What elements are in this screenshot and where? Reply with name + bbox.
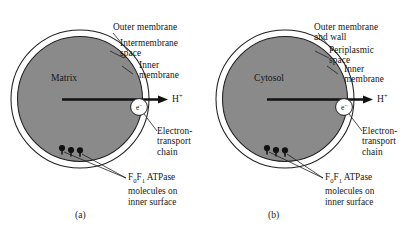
- atpase-knob: [273, 147, 279, 153]
- panel-b-drawing: [205, 0, 410, 236]
- leader-electron-transport-chain: [144, 114, 157, 131]
- label-electron-transport-chain: Electron- transport chain: [157, 126, 193, 157]
- interior-compartment-label: Cytosol: [254, 72, 284, 83]
- label-intermembrane-space: Intermembrane space: [120, 38, 178, 59]
- label-inner-membrane: Inner membrane: [139, 60, 179, 81]
- label-outer-membrane-and-wall: Outer membrane and wall: [314, 22, 378, 43]
- label-electron-transport-chain: Electron- transport chain: [362, 126, 398, 157]
- proton-label: H+: [377, 92, 388, 104]
- proton-label: H+: [172, 92, 183, 104]
- atpase-knob: [68, 147, 74, 153]
- label-atpase-molecules: F0F1 ATPase molecules on inner surface: [128, 172, 177, 207]
- label-atpase-molecules: F0F1 ATPase molecules on inner surface: [325, 172, 374, 207]
- atpase-name-line: F0F1 ATPase: [325, 172, 374, 186]
- label-periplasmic-space: Periplasmic space: [329, 45, 374, 66]
- electron-label: e−: [341, 102, 347, 112]
- atpase-knob: [264, 145, 270, 151]
- atpase-name-line: F0F1 ATPase: [128, 172, 177, 186]
- proton-arrow-head: [363, 95, 373, 103]
- panel-b-bacterium: Cytosol e− H+ Outer membrane and wall Pe…: [205, 0, 410, 236]
- label-inner-membrane: Inner membrane: [344, 64, 384, 85]
- panel-a-caption: (a): [75, 209, 86, 220]
- atpase-knob: [59, 145, 65, 151]
- atpase-knob: [77, 147, 83, 153]
- label-outer-membrane: Outer membrane: [113, 22, 177, 32]
- panel-a-mitochondrion: Matrix e− H+ Outer membrane Intermembran…: [0, 0, 205, 236]
- leader-electron-transport-chain: [349, 114, 362, 131]
- electron-label: e−: [136, 102, 142, 112]
- panel-b-caption: (b): [268, 209, 279, 220]
- mitochondrion-bacterium-comparison-figure: Matrix e− H+ Outer membrane Intermembran…: [0, 0, 410, 236]
- atpase-knob: [282, 147, 288, 153]
- proton-arrow-head: [158, 95, 168, 103]
- interior-compartment-label: Matrix: [51, 72, 77, 83]
